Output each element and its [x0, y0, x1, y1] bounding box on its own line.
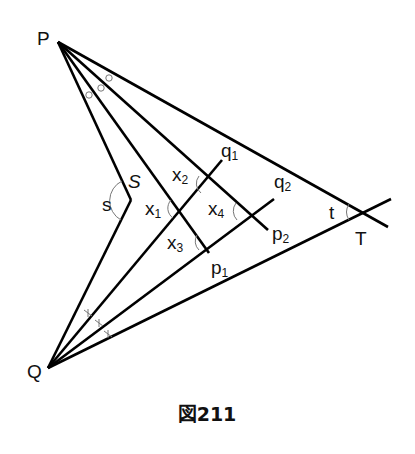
- ray-label-p1: p1: [211, 257, 229, 280]
- point-label-S: S: [128, 171, 141, 192]
- angle-label-t: t: [329, 202, 335, 223]
- geometry-figure: P Q S T q1 q2 p1 p2 s t x1 x2 x3 x4 図211: [0, 0, 415, 454]
- ray-Q-q2: [48, 199, 274, 368]
- segment-PS: [58, 42, 131, 200]
- figure-caption: 図211: [178, 403, 237, 425]
- angle-label-x3: x3: [167, 232, 184, 255]
- equal-angle-mark-circle: [106, 75, 112, 81]
- angle-label-x2: x2: [172, 164, 189, 187]
- angle-label-x4: x4: [208, 198, 225, 221]
- point-label-P: P: [37, 28, 50, 49]
- equal-angle-mark-circle: [98, 85, 104, 91]
- angle-label-s: s: [102, 194, 112, 215]
- ray-P-p2: [58, 42, 268, 230]
- point-label-Q: Q: [27, 361, 42, 382]
- angle-arc-s: [110, 181, 122, 220]
- ray-label-p2: p2: [272, 223, 290, 246]
- ray-P-p1: [58, 42, 209, 253]
- point-label-T: T: [355, 228, 367, 249]
- angle-arc-x4: [233, 203, 237, 220]
- line-QT: [48, 199, 391, 368]
- angle-label-x1: x1: [145, 198, 162, 221]
- equal-angle-mark-circle: [86, 92, 92, 98]
- ray-label-q2: q2: [274, 171, 292, 194]
- ray-label-q1: q1: [221, 140, 239, 163]
- equal-angle-mark-cross: [95, 319, 103, 327]
